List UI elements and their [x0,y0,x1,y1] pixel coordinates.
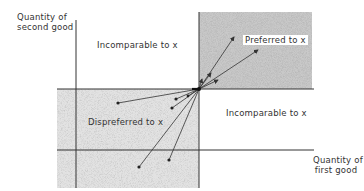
region-label-dispreferred: Dispreferred to x [88,117,163,127]
region-label-preferred: Preferred to x [243,35,308,45]
y-axis-title: Quantity of second good [17,12,73,32]
y-axis-title-line2: second good [17,22,73,32]
x-axis-title-line1: Quantity of [313,155,359,165]
x-axis-title: Quantity of first good [313,155,359,175]
region-label-incomparable-lower: Incomparable to x [226,108,307,118]
region-label-incomparable-upper: Incomparable to x [97,40,178,50]
y-axis-title-line1: Quantity of [17,12,73,22]
x-axis-title-line2: first good [313,165,359,175]
